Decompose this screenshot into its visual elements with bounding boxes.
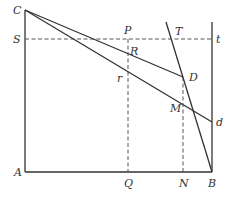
label-T: T bbox=[175, 25, 184, 38]
label-r: r bbox=[117, 72, 123, 85]
label-P: P bbox=[123, 24, 132, 37]
segment-CD bbox=[25, 10, 183, 77]
label-d: d bbox=[216, 116, 223, 129]
label-N: N bbox=[178, 177, 189, 190]
label-S: S bbox=[13, 33, 21, 46]
label-Q: Q bbox=[124, 177, 133, 190]
segment-TB bbox=[166, 22, 212, 172]
segment-Cd bbox=[25, 10, 212, 122]
label-B: B bbox=[207, 177, 216, 190]
label-A: A bbox=[13, 166, 22, 179]
label-t: t bbox=[216, 33, 221, 46]
label-M: M bbox=[169, 102, 182, 115]
label-D: D bbox=[188, 71, 198, 84]
geometry-diagram: C S A P T t R D r M d Q N B bbox=[0, 0, 232, 202]
label-C: C bbox=[13, 4, 22, 17]
label-R: R bbox=[129, 45, 138, 58]
